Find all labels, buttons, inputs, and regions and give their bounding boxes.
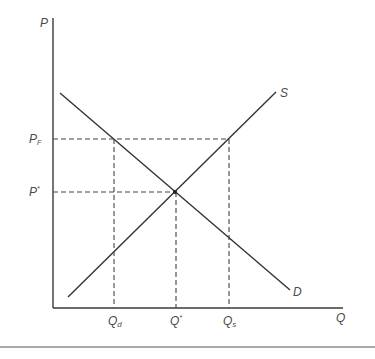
quantity-axis-label: Q [336, 311, 345, 325]
equilibrium-price-label: P* [29, 185, 40, 199]
quantity-supplied-label: Qs [223, 314, 236, 329]
supply-label: S [280, 86, 288, 100]
supply-demand-diagram: P Q S D PF P* Qd Q* Qs [0, 0, 375, 359]
price-axis-label: P [40, 16, 48, 30]
price-floor-label: PF [29, 132, 42, 146]
demand-label: D [293, 285, 302, 299]
supply-curve [68, 92, 276, 297]
equilibrium-quantity-label: Q* [170, 314, 182, 328]
equilibrium-point [173, 190, 177, 194]
quantity-demanded-label: Qd [108, 314, 122, 329]
